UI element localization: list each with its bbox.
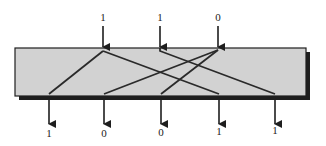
output-arrows (49, 97, 275, 124)
input-label-1: 1 (100, 12, 106, 23)
output-label-2: 0 (101, 128, 107, 139)
input-arrows (103, 26, 218, 47)
output-label-3: 0 (158, 127, 164, 138)
input-label-3: 0 (215, 12, 221, 23)
input-label-2: 1 (157, 12, 163, 23)
output-label-4: 1 (216, 126, 222, 137)
output-label-5: 1 (272, 125, 278, 136)
output-label-1: 1 (46, 128, 52, 139)
